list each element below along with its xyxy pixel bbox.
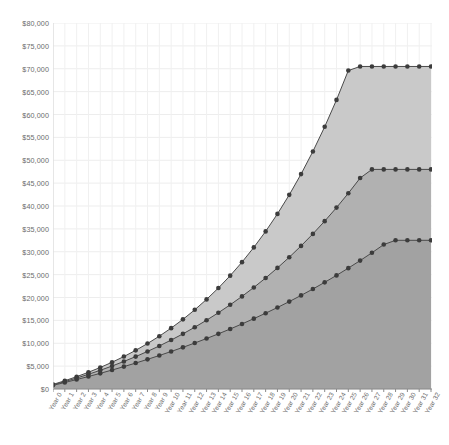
data-point-marker [299, 172, 304, 177]
data-point-marker [157, 353, 162, 358]
y-axis-tick-label: $20,000 [22, 293, 49, 302]
compound-growth-area-chart: $0$5,000$10,000$15,000$20,000$25,000$30,… [0, 0, 449, 445]
data-point-marker [263, 276, 268, 281]
data-point-marker [169, 349, 174, 354]
data-point-marker [240, 260, 245, 265]
data-point-marker [334, 205, 339, 210]
data-point-marker [252, 285, 257, 290]
data-point-marker [287, 255, 292, 260]
data-point-marker [192, 308, 197, 313]
data-point-marker [181, 345, 186, 350]
data-point-marker [299, 244, 304, 249]
data-point-marker [393, 167, 398, 172]
data-point-marker [133, 348, 138, 353]
data-point-marker [311, 232, 316, 237]
y-axis-tick-label: $5,000 [26, 362, 49, 371]
data-point-marker [133, 354, 138, 359]
data-point-marker [417, 64, 422, 69]
y-axis-tick-label: $80,000 [22, 19, 49, 28]
data-point-marker [311, 149, 316, 154]
data-point-marker [181, 317, 186, 322]
data-point-marker [157, 334, 162, 339]
y-axis-tick-label: $45,000 [22, 179, 49, 188]
y-axis-tick-label: $35,000 [22, 224, 49, 233]
data-point-marker [240, 294, 245, 299]
data-point-marker [322, 280, 327, 285]
data-point-marker [417, 238, 422, 243]
y-axis-tick-label: $30,000 [22, 247, 49, 256]
data-point-marker [110, 368, 115, 373]
y-axis-tick-label: $0 [41, 385, 49, 394]
data-point-marker [169, 326, 174, 331]
data-point-marker [145, 357, 150, 362]
y-axis-tick-label: $75,000 [22, 41, 49, 50]
y-axis-tick-label: $65,000 [22, 87, 49, 96]
data-point-marker [204, 297, 209, 302]
data-point-marker [228, 273, 233, 278]
data-point-marker [252, 245, 257, 250]
data-point-marker [240, 322, 245, 327]
y-axis-tick-label: $55,000 [22, 133, 49, 142]
data-point-marker [252, 316, 257, 321]
data-point-marker [346, 191, 351, 196]
data-point-marker [381, 64, 386, 69]
data-point-marker [145, 341, 150, 346]
y-axis-tick-label: $25,000 [22, 270, 49, 279]
data-point-marker [192, 325, 197, 330]
data-point-marker [263, 229, 268, 234]
data-point-marker [122, 359, 127, 364]
data-point-marker [169, 338, 174, 343]
data-point-marker [204, 336, 209, 341]
data-point-marker [263, 311, 268, 316]
data-point-marker [381, 167, 386, 172]
data-point-marker [216, 286, 221, 291]
data-point-marker [393, 238, 398, 243]
data-point-marker [370, 250, 375, 255]
data-point-marker [393, 64, 398, 69]
data-point-marker [110, 364, 115, 369]
data-point-marker [145, 349, 150, 354]
y-axis-tick-label: $60,000 [22, 110, 49, 119]
data-point-marker [334, 273, 339, 278]
data-point-marker [311, 287, 316, 292]
y-axis-tick-label: $70,000 [22, 64, 49, 73]
data-point-marker [322, 124, 327, 129]
data-point-marker [122, 354, 127, 359]
data-point-marker [157, 344, 162, 349]
data-point-marker [204, 318, 209, 323]
data-point-marker [86, 374, 91, 379]
data-point-marker [322, 219, 327, 224]
data-point-marker [370, 64, 375, 69]
data-point-marker [405, 238, 410, 243]
y-axis: $0$5,000$10,000$15,000$20,000$25,000$30,… [0, 0, 49, 445]
data-point-marker [358, 258, 363, 263]
data-point-marker [181, 332, 186, 337]
data-point-marker [216, 332, 221, 337]
data-point-marker [275, 266, 280, 271]
data-point-marker [346, 266, 351, 271]
data-point-marker [370, 167, 375, 172]
data-point-marker [228, 327, 233, 332]
data-point-marker [192, 341, 197, 346]
data-point-marker [381, 242, 386, 247]
data-point-marker [228, 303, 233, 308]
data-point-marker [334, 98, 339, 103]
data-point-marker [275, 305, 280, 310]
data-point-marker [74, 377, 79, 382]
y-axis-tick-label: $15,000 [22, 316, 49, 325]
data-point-marker [417, 167, 422, 172]
data-point-marker [405, 64, 410, 69]
data-point-marker [122, 364, 127, 369]
x-axis: Year 0Year 1Year 2Year 3Year 4Year 5Year… [53, 389, 432, 445]
data-point-marker [299, 293, 304, 298]
data-point-marker [405, 167, 410, 172]
data-point-marker [98, 371, 103, 376]
data-point-marker [287, 299, 292, 304]
chart-canvas [53, 23, 432, 394]
data-point-marker [275, 212, 280, 217]
y-axis-tick-label: $10,000 [22, 339, 49, 348]
data-point-marker [287, 193, 292, 198]
data-point-marker [133, 361, 138, 366]
data-point-marker [216, 310, 221, 315]
y-axis-tick-label: $40,000 [22, 202, 49, 211]
